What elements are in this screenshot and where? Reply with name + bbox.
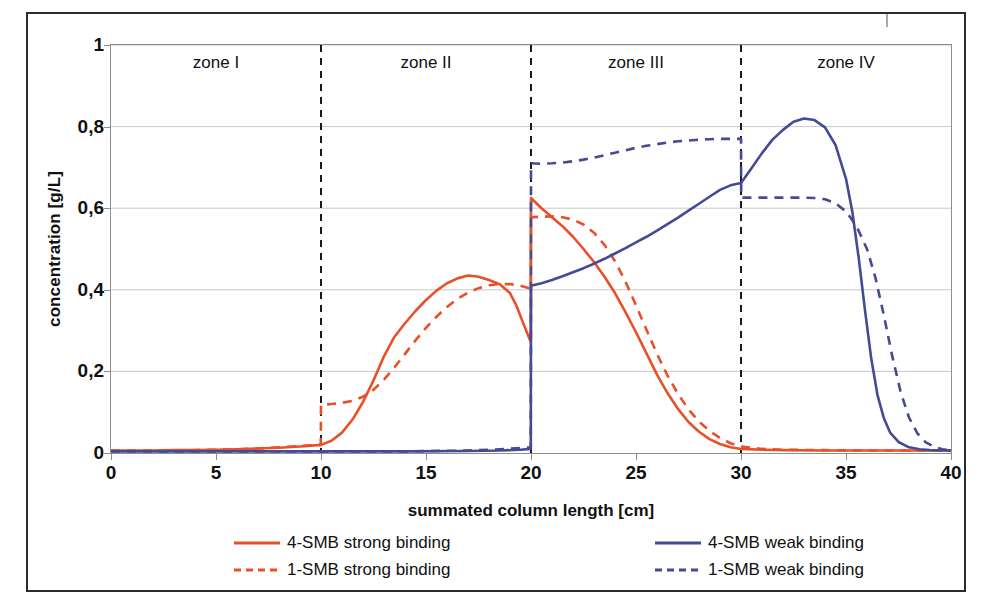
- x-tick-mark: [846, 453, 847, 460]
- x-tick-label: 25: [625, 462, 646, 484]
- legend-item: 4-SMB weak binding: [531, 533, 952, 553]
- y-tick-label: 0,6: [78, 197, 104, 219]
- y-tick-mark: [104, 290, 111, 291]
- chart-legend: 4-SMB strong binding4-SMB weak binding1-…: [110, 533, 952, 580]
- x-tick-label: 15: [415, 462, 436, 484]
- x-tick-mark: [426, 453, 427, 460]
- y-tick-label: 0,2: [78, 360, 104, 382]
- y-axis-title: concentration [g/L]: [42, 44, 68, 454]
- y-tick-mark: [104, 371, 111, 372]
- x-tick-label: 30: [730, 462, 751, 484]
- y-tick-mark: [104, 127, 111, 128]
- legend-label: 1-SMB strong binding: [287, 560, 450, 580]
- x-tick-mark: [111, 453, 112, 460]
- plot-area: 00,20,40,60,81 0510152025303540 zone Izo…: [110, 44, 952, 454]
- chart-canvas: [111, 45, 951, 453]
- x-tick-label: 10: [310, 462, 331, 484]
- plot-wrapper: concentration [g/L] 00,20,40,60,81 05101…: [28, 14, 964, 590]
- solid-line-icon: [234, 536, 280, 550]
- y-axis-title-text: concentration [g/L]: [45, 171, 65, 327]
- y-tick-label: 0,4: [78, 279, 104, 301]
- solid-line-icon: [655, 536, 701, 550]
- x-tick-mark: [321, 453, 322, 460]
- y-tick-label: 0,8: [78, 116, 104, 138]
- legend-label: 4-SMB weak binding: [708, 533, 864, 553]
- x-tick-mark: [636, 453, 637, 460]
- x-tick-mark: [531, 453, 532, 460]
- y-tick-mark: [104, 208, 111, 209]
- x-tick-mark: [741, 453, 742, 460]
- y-tick-mark: [104, 453, 111, 454]
- dashed-line-icon: [655, 563, 701, 577]
- x-tick-label: 35: [835, 462, 856, 484]
- x-axis-title: summated column length [cm]: [110, 501, 952, 521]
- y-tick-label: 0: [93, 442, 104, 464]
- x-tick-label: 40: [940, 462, 961, 484]
- x-tick-mark: [951, 453, 952, 460]
- y-tick-mark: [104, 45, 111, 46]
- figure-frame: concentration [g/L] 00,20,40,60,81 05101…: [26, 12, 966, 592]
- legend-item: 1-SMB strong binding: [110, 560, 531, 580]
- dashed-line-icon: [234, 563, 280, 577]
- x-tick-label: 0: [106, 462, 117, 484]
- x-tick-mark: [216, 453, 217, 460]
- legend-label: 1-SMB weak binding: [708, 560, 864, 580]
- x-tick-label: 20: [520, 462, 541, 484]
- zone-label: zone II: [400, 53, 451, 73]
- zone-label: zone I: [193, 53, 239, 73]
- y-tick-label: 1: [93, 34, 104, 56]
- x-tick-label: 5: [211, 462, 222, 484]
- zone-label: zone IV: [817, 53, 875, 73]
- legend-label: 4-SMB strong binding: [287, 533, 450, 553]
- legend-item: 1-SMB weak binding: [531, 560, 952, 580]
- legend-item: 4-SMB strong binding: [110, 533, 531, 553]
- zone-label: zone III: [608, 53, 664, 73]
